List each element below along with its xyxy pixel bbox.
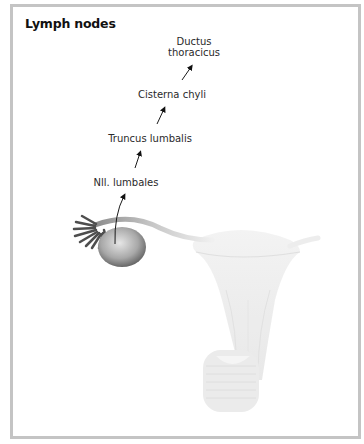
- label-ductus-line1: Ductus: [168, 36, 220, 47]
- ovary-shape: [98, 227, 146, 267]
- anatomy-illustration: [0, 0, 364, 444]
- label-cisterna-chyli: Cisterna chyli: [138, 89, 206, 100]
- arrow-cisterna-to-ductus: [182, 67, 191, 80]
- arrow-truncus-to-cisterna: [157, 109, 164, 124]
- figure-title: Lymph nodes: [25, 16, 116, 31]
- cervix-shape: [203, 350, 259, 412]
- label-nll-lumbales: Nll. lumbales: [94, 177, 159, 188]
- label-truncus-lumbalis: Truncus lumbalis: [108, 133, 192, 144]
- label-ductus-line2: thoracicus: [168, 47, 220, 58]
- uterus-shape: [193, 230, 318, 412]
- label-ductus-thoracicus: Ductus thoracicus: [168, 36, 220, 58]
- arrow-nodes-to-truncus: [135, 153, 140, 168]
